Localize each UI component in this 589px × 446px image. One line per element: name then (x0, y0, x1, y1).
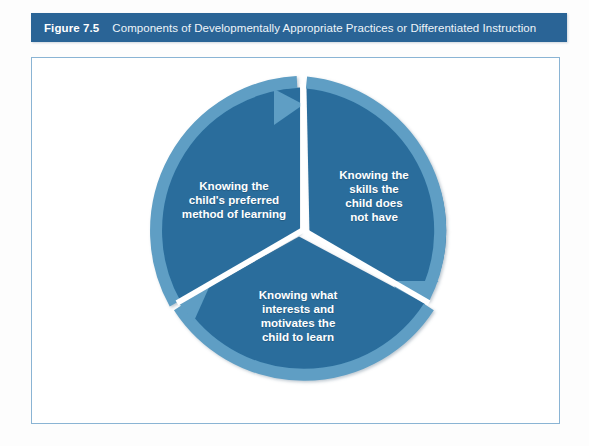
segment-label-method: Knowing the child's preferred method of … (168, 179, 300, 221)
figure-number-label: Figure 7.5 (44, 22, 99, 34)
figure-title-label: Components of Developmentally Appropriat… (112, 22, 536, 34)
figure-frame (31, 57, 560, 424)
figure-caption-bar: Figure 7.5 Components of Developmentally… (31, 13, 567, 42)
segment-label-skills: Knowing the skills the child does not ha… (322, 168, 426, 225)
segment-label-interests: Knowing what interests and motivates the… (231, 288, 365, 345)
